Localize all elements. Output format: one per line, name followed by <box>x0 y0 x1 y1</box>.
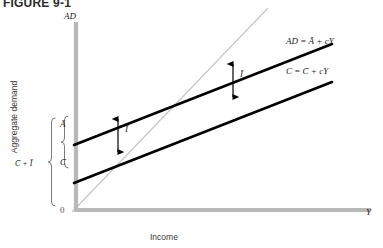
investment-gap-label-lower: Ī <box>125 124 128 134</box>
x-axis-title: Income <box>150 232 178 242</box>
y-axis-title: Aggregate demand <box>9 77 19 157</box>
inner-brace-abar <box>48 118 56 206</box>
consumption-schedule-line <box>74 82 332 183</box>
forty-five-degree-line <box>72 8 268 212</box>
autonomous-spending-label: Ā <box>60 119 66 129</box>
total-autonomous-label: C̄ + Ī <box>15 159 32 168</box>
ad-schedule-line <box>74 44 332 145</box>
consumption-equation-label: C = C̄ + cY <box>286 66 328 76</box>
autonomous-consumption-label: C̄ <box>60 157 66 167</box>
investment-gap-label-upper: Ī <box>240 69 243 79</box>
y-axis-symbol-label: AD <box>64 11 76 21</box>
ad-equation-label: AD = Ā + cY <box>286 36 334 46</box>
origin-label: 0 <box>60 205 65 215</box>
x-axis-symbol-label: Y <box>366 207 371 217</box>
